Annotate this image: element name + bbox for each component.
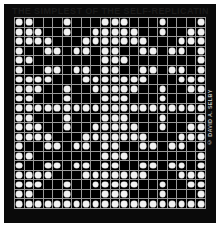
grid-cell-empty	[63, 66, 72, 75]
grid-cell-filled	[130, 123, 139, 132]
grid-cell-filled	[168, 104, 177, 113]
grid-cell-empty	[139, 123, 148, 132]
grid-cell-empty	[168, 85, 177, 94]
grid-cell-filled	[82, 171, 91, 180]
grid-cell-filled	[120, 75, 129, 84]
grid-cell-filled	[111, 94, 120, 103]
grid-cell-filled	[196, 180, 205, 189]
grid-cell-filled	[120, 199, 129, 208]
grid-cell-filled	[15, 75, 24, 84]
grid-cell-empty	[91, 47, 100, 56]
grid-cell-filled	[168, 66, 177, 75]
grid-cell-filled	[101, 133, 110, 142]
grid-cell-filled	[91, 37, 100, 46]
grid-cell-filled	[44, 142, 53, 151]
grid-cell-filled	[82, 37, 91, 46]
grid-cell-empty	[168, 152, 177, 161]
grid-cell-filled	[101, 190, 110, 199]
grid-cell-filled	[158, 123, 167, 132]
grid-cell-empty	[168, 75, 177, 84]
grid-cell-empty	[158, 66, 167, 75]
grid-cell-empty	[34, 56, 43, 65]
grid-cell-filled	[111, 199, 120, 208]
grid-cell-filled	[25, 199, 34, 208]
grid-cell-empty	[158, 152, 167, 161]
grid-cell-empty	[168, 28, 177, 37]
dot-grid	[14, 17, 206, 209]
grid-cell-filled	[53, 66, 62, 75]
grid-cell-empty	[72, 123, 81, 132]
grid-cell-filled	[158, 114, 167, 123]
grid-cell-filled	[91, 75, 100, 84]
grid-cell-filled	[44, 37, 53, 46]
grid-cell-filled	[111, 104, 120, 113]
grid-cell-filled	[101, 85, 110, 94]
grid-cell-filled	[15, 152, 24, 161]
grid-cell-filled	[139, 171, 148, 180]
grid-cell-filled	[130, 180, 139, 189]
grid-cell-empty	[53, 56, 62, 65]
grid-cell-empty	[82, 123, 91, 132]
grid-cell-empty	[149, 56, 158, 65]
grid-cell-empty	[177, 94, 186, 103]
grid-cell-filled	[111, 18, 120, 27]
grid-cell-filled	[111, 75, 120, 84]
grid-cell-empty	[53, 114, 62, 123]
grid-cell-filled	[158, 28, 167, 37]
grid-cell-empty	[187, 47, 196, 56]
grid-cell-empty	[177, 152, 186, 161]
grid-cell-filled	[34, 37, 43, 46]
grid-cell-empty	[130, 152, 139, 161]
grid-cell-empty	[34, 18, 43, 27]
grid-cell-filled	[101, 114, 110, 123]
grid-cell-empty	[34, 161, 43, 170]
grid-cell-empty	[139, 56, 148, 65]
grid-cell-empty	[72, 190, 81, 199]
grid-cell-filled	[111, 180, 120, 189]
grid-cell-empty	[34, 142, 43, 151]
grid-cell-filled	[130, 104, 139, 113]
grid-cell-empty	[158, 47, 167, 56]
grid-cell-filled	[63, 18, 72, 27]
grid-cell-filled	[25, 94, 34, 103]
grid-cell-empty	[72, 94, 81, 103]
grid-cell-filled	[34, 171, 43, 180]
grid-cell-filled	[187, 104, 196, 113]
grid-cell-empty	[53, 94, 62, 103]
grid-cell-filled	[101, 199, 110, 208]
grid-cell-filled	[111, 37, 120, 46]
grid-cell-filled	[196, 47, 205, 56]
grid-cell-filled	[15, 171, 24, 180]
grid-cell-filled	[72, 66, 81, 75]
grid-cell-empty	[91, 18, 100, 27]
grid-cell-filled	[139, 133, 148, 142]
grid-cell-empty	[187, 94, 196, 103]
grid-cell-empty	[149, 133, 158, 142]
grid-cell-filled	[168, 161, 177, 170]
grid-cell-filled	[25, 180, 34, 189]
grid-cell-filled	[91, 123, 100, 132]
grid-cell-empty	[72, 114, 81, 123]
grid-cell-empty	[72, 85, 81, 94]
grid-cell-filled	[177, 37, 186, 46]
grid-cell-filled	[177, 199, 186, 208]
grid-cell-empty	[63, 142, 72, 151]
grid-cell-filled	[196, 28, 205, 37]
grid-cell-filled	[72, 47, 81, 56]
grid-cell-empty	[53, 85, 62, 94]
grid-cell-filled	[101, 152, 110, 161]
grid-cell-filled	[196, 56, 205, 65]
grid-cell-empty	[91, 56, 100, 65]
grid-cell-empty	[187, 56, 196, 65]
grid-cell-filled	[187, 199, 196, 208]
grid-cell-filled	[196, 66, 205, 75]
grid-cell-filled	[187, 37, 196, 46]
grid-cell-empty	[34, 190, 43, 199]
grid-cell-filled	[34, 180, 43, 189]
grid-cell-filled	[130, 133, 139, 142]
grid-cell-empty	[82, 114, 91, 123]
grid-cell-empty	[130, 66, 139, 75]
grid-cell-filled	[111, 133, 120, 142]
grid-cell-filled	[111, 47, 120, 56]
grid-cell-empty	[44, 56, 53, 65]
